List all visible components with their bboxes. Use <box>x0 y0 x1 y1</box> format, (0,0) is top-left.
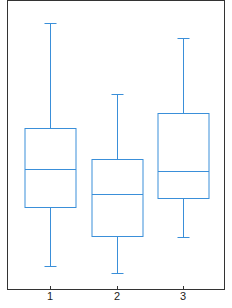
plot-frame <box>8 1 225 290</box>
box-plot-chart <box>0 0 232 308</box>
x-tick-label-1: 1 <box>40 290 60 302</box>
box-3 <box>158 114 209 199</box>
x-tick-label-3: 3 <box>173 290 193 302</box>
x-tick-label-2: 2 <box>107 290 127 302</box>
box-1 <box>25 129 76 208</box>
box-2 <box>92 160 143 237</box>
boxes-group <box>25 24 209 274</box>
